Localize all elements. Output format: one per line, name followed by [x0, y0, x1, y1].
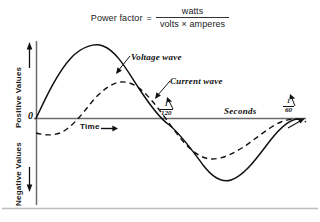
x-tick-full-period-denominator: 60: [284, 107, 293, 114]
power-factor-figure: Power factor = watts volts × amperes: [0, 0, 320, 222]
origin-label: 0: [28, 110, 33, 121]
x-axis-seconds-label: Seconds: [224, 106, 257, 116]
x-tick-full-period-numerator: 1: [286, 98, 292, 105]
current-wave-leader-arrow-icon: [155, 81, 170, 99]
positive-direction-arrow-icon: [27, 42, 33, 68]
x-axis-time-label: Time: [80, 122, 100, 131]
x-tick-half-period-denominator: 120: [160, 110, 173, 117]
x-tick-label-half-period: 1 120: [160, 101, 173, 117]
y-axis-negative-values-label: Negative Values: [14, 142, 23, 206]
y-axis-positive-values-label: Positive Values: [14, 67, 23, 128]
negative-direction-arrow-icon: [27, 167, 33, 192]
current-wave-label: Current wave: [170, 76, 223, 86]
voltage-wave-label: Voltage wave: [131, 52, 182, 62]
x-tick-label-full-period: 1 60: [283, 98, 294, 114]
time-direction-arrow-icon: [101, 126, 118, 132]
x-tick-half-period-numerator: 1: [164, 101, 170, 108]
